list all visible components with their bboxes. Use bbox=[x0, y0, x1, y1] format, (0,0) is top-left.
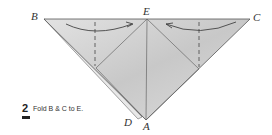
point-label-e: E bbox=[143, 5, 150, 17]
point-label-c: C bbox=[253, 11, 260, 23]
step-number: 2 bbox=[22, 103, 28, 114]
point-label-b: B bbox=[31, 10, 38, 22]
point-label-a: A bbox=[143, 120, 150, 132]
fold-diagram bbox=[0, 0, 272, 135]
step-instruction: Fold B & C to E. bbox=[33, 104, 83, 113]
point-label-d: D bbox=[124, 116, 132, 128]
step-underline bbox=[22, 116, 30, 119]
